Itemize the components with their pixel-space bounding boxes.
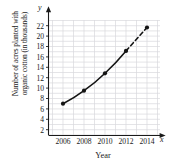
y-axis-title-line2: organic cotton (in thousands) (21, 0, 30, 116)
data-point (124, 49, 128, 53)
data-point (145, 25, 149, 29)
y-axis-title: Number of acres planted with organic cot… (12, 0, 29, 116)
data-point (61, 102, 65, 106)
y-axis-letter: y (38, 3, 42, 12)
x-tick-label-2014: 2014 (135, 137, 159, 146)
chart-figure: y x 2 4 6 8 10 12 14 16 18 20 22 2006 20… (0, 0, 171, 167)
y-tick-label-4: 4 (22, 115, 44, 124)
x-axis-title: Year (48, 151, 158, 160)
data-point (82, 89, 86, 93)
data-point (103, 71, 107, 75)
x-axis-letter: x (160, 135, 164, 144)
grid-horizontal (48, 21, 160, 135)
y-tick-label-2: 2 (22, 126, 44, 135)
